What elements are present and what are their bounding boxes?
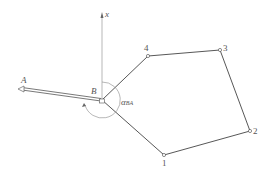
label-b: B [91, 86, 97, 96]
traverse-diagram: x A B 4 3 2 1 αBA [0, 0, 270, 180]
label-3: 3 [223, 43, 228, 53]
point-1-marker-icon [162, 153, 165, 156]
known-line-ba-2 [22, 90, 101, 101]
axis-label: x [105, 9, 109, 19]
angle-label: αBA [121, 97, 133, 107]
point-3-marker-icon [218, 48, 221, 51]
diagram-canvas [0, 0, 270, 180]
label-2: 2 [253, 126, 258, 136]
label-1: 1 [162, 158, 167, 168]
label-a: A [21, 75, 27, 85]
point-a-marker-icon [18, 86, 24, 92]
point-4-marker-icon [146, 54, 149, 57]
axis-arrow-icon [101, 12, 104, 18]
angle-subscript: BA [126, 100, 133, 106]
point-2-marker-icon [248, 129, 251, 132]
point-b-marker-icon [100, 99, 105, 103]
label-4: 4 [144, 43, 149, 53]
known-line-ba [22, 88, 101, 99]
